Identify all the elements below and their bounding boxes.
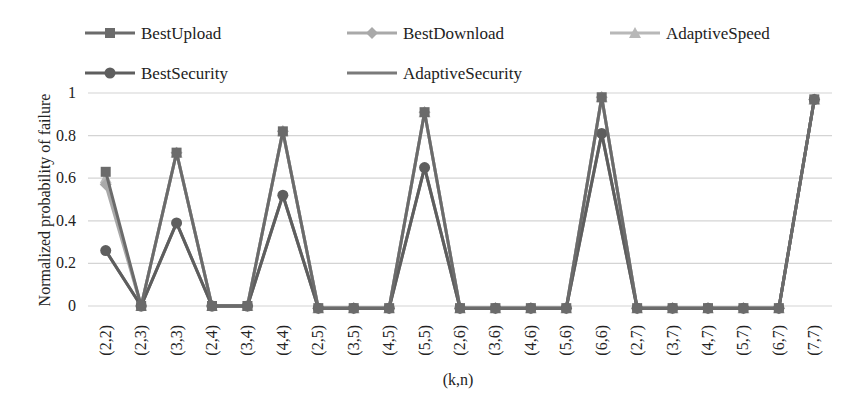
legend-item-adaptivespeed: AdaptiveSpeed [610, 24, 770, 43]
x-tick-label: (7,7) [805, 325, 823, 356]
x-tick-label: (2,2) [97, 325, 115, 356]
x-tick-label: (4,7) [699, 325, 717, 356]
x-tick-label: (2,6) [451, 325, 469, 356]
data-point-square [420, 107, 430, 117]
legend: BestUploadBestDownloadAdaptiveSpeedBestS… [85, 24, 770, 83]
y-tick-label: 1 [68, 84, 76, 101]
x-tick-label: (3,5) [345, 325, 363, 356]
data-point-square [207, 301, 217, 311]
data-point-square [526, 303, 536, 313]
series-adaptivespeed [100, 91, 821, 313]
legend-item-adaptivesecurity: AdaptiveSecurity [347, 64, 522, 83]
x-tick-label: (5,7) [734, 325, 752, 356]
line-chart: BestUploadBestDownloadAdaptiveSpeedBestS… [0, 0, 855, 402]
data-point-square [242, 301, 252, 311]
legend-label: AdaptiveSecurity [403, 64, 522, 83]
data-point-square [172, 148, 182, 158]
x-tick-label: (2,7) [628, 325, 646, 356]
x-tick-label: (6,6) [593, 325, 611, 356]
series-bestdownload [100, 91, 821, 314]
y-axis-title: Normalized probability of failure [36, 94, 54, 307]
legend-item-bestupload: BestUpload [85, 24, 222, 43]
data-point-circle [105, 68, 116, 79]
x-tick-label: (4,6) [522, 325, 540, 356]
y-tick-label: 0.6 [56, 169, 76, 186]
data-point-square [738, 303, 748, 313]
legend-label: BestDownload [403, 24, 505, 43]
data-point-square [809, 94, 819, 104]
data-point-square [455, 303, 465, 313]
series-lines [100, 91, 821, 314]
data-point-square [384, 303, 394, 313]
data-point-diamond [366, 27, 378, 39]
series-adaptivesecurity [106, 99, 815, 308]
data-point-square [278, 126, 288, 136]
x-tick-label: (4,4) [274, 325, 292, 356]
y-tick-label: 0.8 [56, 127, 76, 144]
x-axis-ticks: (2,2)(2,3)(3,3)(2,4)(3,4)(4,4)(2,5)(3,5)… [97, 325, 824, 356]
data-point-square [313, 303, 323, 313]
data-point-square [597, 92, 607, 102]
y-axis-ticks: 00.20.40.60.81 [56, 84, 76, 314]
legend-item-bestsecurity: BestSecurity [85, 64, 228, 83]
legend-label: AdaptiveSpeed [666, 24, 770, 43]
data-point-square [632, 303, 642, 313]
legend-label: BestUpload [141, 24, 222, 43]
data-point-circle [419, 162, 430, 173]
y-tick-label: 0 [68, 297, 76, 314]
data-point-square [105, 28, 115, 38]
x-tick-label: (5,6) [557, 325, 575, 356]
x-tick-label: (2,4) [203, 325, 221, 356]
x-tick-label: (3,7) [664, 325, 682, 356]
x-tick-label: (3,4) [238, 325, 256, 356]
data-point-circle [171, 217, 182, 228]
legend-item-bestdownload: BestDownload [347, 24, 505, 43]
data-point-square [490, 303, 500, 313]
series-bestupload [101, 92, 820, 313]
data-point-square [349, 303, 359, 313]
legend-label: BestSecurity [141, 64, 228, 83]
x-tick-label: (2,3) [132, 325, 150, 356]
data-point-circle [277, 190, 288, 201]
data-point-square [774, 303, 784, 313]
data-point-square [668, 303, 678, 313]
x-tick-label: (2,5) [309, 325, 327, 356]
y-tick-label: 0.4 [56, 212, 76, 229]
x-tick-label: (5,5) [416, 325, 434, 356]
data-point-square [101, 167, 111, 177]
x-tick-label: (3,6) [486, 325, 504, 356]
data-point-circle [596, 128, 607, 139]
x-tick-label: (3,3) [168, 325, 186, 356]
x-axis-title: (k,n) [443, 371, 474, 389]
data-point-square [136, 301, 146, 311]
x-tick-label: (4,5) [380, 325, 398, 356]
data-point-square [703, 303, 713, 313]
x-tick-label: (6,7) [770, 325, 788, 356]
data-point-square [561, 303, 571, 313]
y-tick-label: 0.2 [56, 254, 76, 271]
data-point-circle [100, 245, 111, 256]
series-bestsecurity [100, 94, 820, 314]
